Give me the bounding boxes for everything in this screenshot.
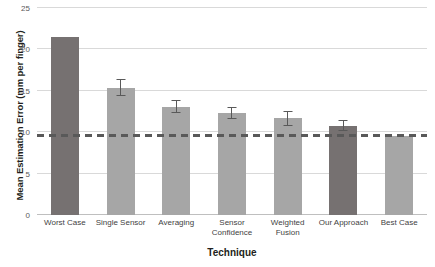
y-axis-tick-labels: 0510152025: [4, 8, 32, 215]
x-axis-tick-labels: Worst CaseSingle SensorAveragingSensor C…: [37, 218, 427, 246]
error-bar-cap-top: [283, 111, 292, 112]
x-tick-label: Weighted Fusion: [260, 218, 316, 238]
error-bar-cap-top: [339, 120, 348, 121]
error-bar-cap-bottom: [172, 112, 181, 113]
bar-group: [371, 8, 427, 215]
error-bar-cap-bottom: [227, 118, 236, 119]
x-axis-title: Technique: [37, 247, 427, 258]
x-tick-label: Sensor Confidence: [204, 218, 260, 238]
bar: [107, 88, 135, 216]
error-bar: [116, 79, 125, 96]
bar-group: [37, 8, 93, 215]
bar: [218, 113, 246, 215]
x-tick-label: Single Sensor: [93, 218, 149, 228]
x-tick-label: Best Case: [371, 218, 427, 228]
y-tick-label: 15: [4, 86, 30, 95]
y-tick-label: 10: [4, 128, 30, 137]
bar: [385, 136, 413, 215]
error-bar-cap-bottom: [283, 125, 292, 126]
error-bar-cap-top: [116, 79, 125, 80]
reference-line: [37, 134, 427, 137]
bar-group: [93, 8, 149, 215]
bar: [51, 37, 79, 215]
error-bar: [283, 111, 292, 126]
y-tick-label: 0: [4, 211, 30, 220]
error-bar-cap-bottom: [116, 95, 125, 96]
error-bar-cap-top: [227, 107, 236, 108]
y-tick-label: 5: [4, 169, 30, 178]
bar-chart: Mean Estimation Error (mm per finger) 05…: [0, 0, 435, 267]
bar-group: [316, 8, 372, 215]
error-bar-cap-bottom: [339, 130, 348, 131]
error-bar-stem: [176, 100, 177, 113]
bar-series: [37, 8, 427, 215]
plot-area: [37, 8, 427, 215]
error-bar: [227, 107, 236, 119]
x-tick-label: Our Approach: [316, 218, 372, 228]
y-tick-label: 20: [4, 45, 30, 54]
bar-group: [204, 8, 260, 215]
error-bar-stem: [120, 79, 121, 96]
x-tick-label: Worst Case: [37, 218, 93, 228]
bar: [329, 126, 357, 215]
bar: [162, 107, 190, 215]
error-bar-cap-top: [172, 100, 181, 101]
x-tick-label: Averaging: [148, 218, 204, 228]
error-bar-stem: [287, 111, 288, 126]
error-bar: [172, 100, 181, 113]
bar-group: [148, 8, 204, 215]
bar-group: [260, 8, 316, 215]
y-tick-label: 25: [4, 4, 30, 13]
error-bar: [339, 120, 348, 132]
